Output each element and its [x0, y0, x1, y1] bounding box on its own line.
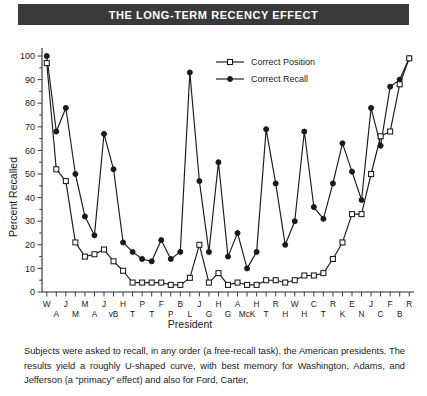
open-square-marker-icon	[235, 280, 240, 285]
x-tick-label: J	[64, 299, 68, 309]
filled-circle-marker-icon	[292, 219, 297, 224]
filled-circle-marker-icon	[264, 127, 269, 132]
x-tick-label: W	[291, 299, 299, 309]
filled-circle-marker-icon	[283, 242, 288, 247]
x-tick-label: M	[81, 299, 88, 309]
chart-legend: Correct PositionCorrect Recall	[216, 57, 315, 84]
filled-circle-marker-icon	[235, 231, 240, 236]
x-tick-label: T	[149, 309, 154, 319]
filled-circle-marker-icon	[82, 214, 87, 219]
filled-circle-marker-icon	[168, 256, 173, 261]
filled-circle-marker-icon	[73, 172, 78, 177]
x-tick-label: B	[178, 299, 184, 309]
open-square-marker-icon	[321, 271, 326, 276]
open-square-marker-icon	[54, 167, 59, 172]
x-tick-label: C	[311, 299, 317, 309]
x-tick-label: J	[197, 299, 201, 309]
y-tick-label: 50	[25, 169, 35, 179]
x-tick-label: R	[330, 299, 336, 309]
filled-circle-marker-icon	[178, 249, 183, 254]
open-square-marker-icon	[159, 280, 164, 285]
filled-circle-marker-icon	[302, 129, 307, 134]
x-tick-label: H	[254, 299, 260, 309]
page-title: THE LONG-TERM RECENCY EFFECT	[109, 9, 319, 21]
open-square-marker-icon	[264, 278, 269, 283]
filled-circle-marker-icon	[102, 131, 107, 136]
open-square-marker-icon	[73, 240, 78, 245]
y-tick-label: 30	[25, 216, 35, 226]
filled-circle-marker-icon	[197, 179, 202, 184]
y-tick-label: 40	[25, 193, 35, 203]
x-tick-label: R	[406, 299, 412, 309]
open-square-marker-icon	[292, 278, 297, 283]
figure-caption: Subjects were asked to recall, in any or…	[24, 344, 405, 388]
x-tick-label: F	[388, 299, 393, 309]
filled-circle-marker-icon	[63, 105, 68, 110]
filled-circle-marker-icon	[369, 105, 374, 110]
x-tick-label: H	[215, 299, 221, 309]
filled-circle-marker-icon	[130, 249, 135, 254]
x-tick-label: H	[301, 309, 307, 319]
filled-circle-marker-icon	[206, 249, 211, 254]
open-square-marker-icon	[388, 129, 393, 134]
x-tick-label: N	[359, 309, 365, 319]
open-square-marker-icon	[178, 282, 183, 287]
y-tick-label: 20	[25, 240, 35, 250]
legend-item-label: Correct Position	[251, 57, 315, 67]
filled-circle-marker-icon	[311, 205, 316, 210]
open-square-marker-icon	[63, 179, 68, 184]
filled-circle-marker-icon	[340, 141, 345, 146]
y-tick-label: 100	[20, 51, 35, 61]
x-tick-label: K	[340, 309, 346, 319]
x-tick-label: vB	[109, 309, 119, 319]
open-square-marker-icon	[369, 172, 374, 177]
y-axis-title: Percent Recalled	[7, 157, 19, 237]
open-square-marker-icon	[82, 254, 87, 259]
open-square-marker-icon	[197, 242, 202, 247]
recall-line-chart: 0102030405060708090100 WAJMMAJvBHTPTFPBL…	[0, 27, 427, 337]
x-tick-label: W	[43, 299, 51, 309]
x-tick-label: McK	[239, 309, 256, 319]
x-tick-label: H	[282, 309, 288, 319]
open-square-marker-icon	[206, 280, 211, 285]
filled-circle-marker-icon	[321, 216, 326, 221]
y-tick-label: 60	[25, 146, 35, 156]
x-tick-label: P	[139, 299, 145, 309]
x-axis-title: President	[168, 318, 212, 330]
filled-circle-marker-icon	[350, 169, 355, 174]
open-square-marker-icon	[302, 273, 307, 278]
open-square-marker-icon	[168, 282, 173, 287]
open-square-marker-icon	[130, 280, 135, 285]
x-tick-label: F	[159, 299, 164, 309]
x-tick-label: H	[120, 299, 126, 309]
y-tick-label: 90	[25, 75, 35, 85]
filled-circle-marker-icon	[245, 266, 250, 271]
filled-circle-marker-icon	[226, 254, 231, 259]
y-axis: 0102030405060708090100	[20, 48, 42, 297]
y-tick-label: 0	[30, 287, 35, 297]
filled-circle-marker-icon	[121, 240, 126, 245]
open-square-marker-icon	[216, 271, 221, 276]
filled-circle-marker-icon	[388, 84, 393, 89]
filled-circle-marker-icon	[44, 54, 49, 59]
filled-circle-marker-icon	[111, 167, 116, 172]
filled-circle-marker-icon	[330, 181, 335, 186]
filled-circle-marker-icon	[92, 233, 97, 238]
filled-circle-marker-icon	[254, 249, 259, 254]
open-square-marker-icon	[311, 273, 316, 278]
x-tick-label: J	[102, 299, 106, 309]
open-square-marker-icon	[121, 268, 126, 273]
open-square-marker-icon	[397, 82, 402, 87]
open-square-marker-icon	[44, 61, 49, 66]
open-square-marker-icon	[226, 282, 231, 287]
x-tick-label: E	[349, 299, 355, 309]
x-tick-label: T	[130, 309, 135, 319]
open-square-marker-icon	[92, 252, 97, 257]
open-square-marker-icon	[350, 212, 355, 217]
open-square-marker-icon	[245, 282, 250, 287]
open-square-marker-icon	[140, 280, 145, 285]
y-tick-label: 10	[25, 264, 35, 274]
open-square-marker-icon	[359, 212, 364, 217]
x-tick-label: T	[264, 309, 269, 319]
filled-circle-marker-icon	[187, 70, 192, 75]
